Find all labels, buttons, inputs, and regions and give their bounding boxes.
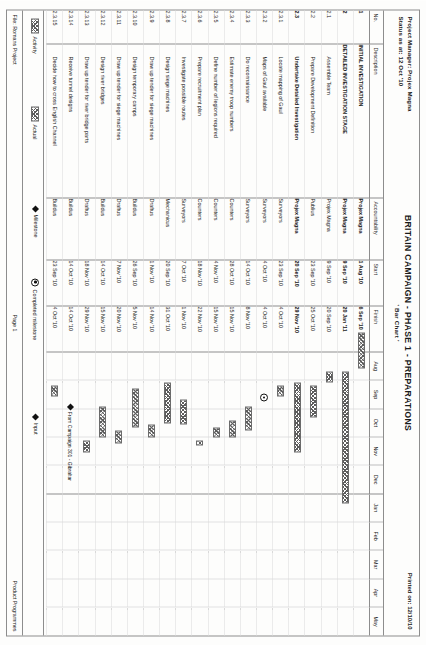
cell-no: 2.3.15 (47, 10, 63, 44)
timeline-cell-aug (353, 352, 369, 380)
timeline-cell-nov (208, 437, 224, 465)
timeline-cell-mar (273, 550, 289, 578)
table-row: 2.1Assemble TeamProjex Magna9 Sep '1020 … (321, 10, 337, 635)
milestone-diamond-icon (32, 413, 39, 420)
cell-start-date: 7 Oct '10 (176, 260, 192, 306)
timeline-cell-dec (240, 465, 256, 493)
cell-accountability: Draftus (79, 198, 95, 260)
timeline-cell-aug (47, 352, 63, 380)
cell-description: Design siege machines (160, 44, 176, 198)
cell-start-date: 1 Nov '10 (144, 260, 160, 306)
cell-description: Decide how to cross English Channel (47, 44, 63, 198)
timeline-cell-aug (111, 352, 127, 380)
cell-finish-date: 14 Nov '10 (144, 306, 160, 352)
timeline-cell-may (63, 607, 79, 635)
timeline-cell-jan (127, 493, 143, 521)
timeline-cell-may (192, 607, 208, 635)
cell-no: 2.3.2 (257, 10, 273, 44)
timeline-cell-dec (337, 465, 353, 493)
cell-finish-date: 4 Oct '10 (257, 306, 273, 352)
gantt-chart-sheet: Project Manager: Projex Magna Status as … (0, 0, 426, 645)
cell-description: DETAILED INVESTIGATION STAGE (337, 44, 353, 198)
cell-finish-date: 14 Oct '10 (63, 306, 79, 352)
timeline-cell-nov (257, 437, 273, 465)
cell-finish-date: 15 Nov '10 (95, 306, 111, 352)
timeline-cell-apr (289, 578, 305, 606)
legend-item: Input (33, 414, 39, 434)
timeline-cell-may (224, 607, 240, 635)
cell-no: 2.3.11 (111, 10, 127, 44)
timeline-cell-dec (176, 465, 192, 493)
timeline-cell-nov (353, 437, 369, 465)
cell-accountability: Projex Magna (337, 198, 353, 260)
cell-description: Do reconnaissance (240, 44, 256, 198)
timeline-cell-apr (111, 578, 127, 606)
cell-accountability: Buildus (127, 198, 143, 260)
timeline-cell-dec (192, 465, 208, 493)
timeline-cell-jan (79, 493, 95, 521)
cell-description: Draw up tender for river bridge parts (79, 44, 95, 198)
cell-start-date: 4 Nov '10 (208, 260, 224, 306)
timeline-month-header-nov: Nov (370, 437, 384, 465)
timeline-cell-jan (208, 493, 224, 521)
timeline-cell-sep (305, 380, 321, 408)
cell-finish-date: 15 Nov '10 (208, 306, 224, 352)
legend-label: Input (33, 422, 39, 434)
timeline-cell-feb (337, 522, 353, 550)
col-header-start: Start (370, 260, 384, 306)
timeline-cell-nov (305, 437, 321, 465)
timeline-cell-nov (127, 437, 143, 465)
cell-accountability: Buildus (63, 198, 79, 260)
cell-start-date: 9 Sep '10 (337, 260, 353, 306)
timeline-cell-dec (208, 465, 224, 493)
timeline-cell-aug (176, 352, 192, 380)
timeline-cell-sep (224, 380, 240, 408)
document-header: Project Manager: Projex Magna Status as … (383, 10, 419, 635)
cell-start-date: 18 Nov '10 (192, 260, 208, 306)
timeline-cell-mar (47, 550, 63, 578)
timeline-cell-mar (63, 550, 79, 578)
table-row: 2.3.13Draw up tender for river bridge pa… (79, 10, 95, 635)
timeline-cell-may (127, 607, 143, 635)
timeline-cell-dec (321, 465, 337, 493)
timeline-cell-jan (160, 493, 176, 521)
timeline-cell-apr (79, 578, 95, 606)
timeline-cell-apr (127, 578, 143, 606)
cell-accountability: Counters (192, 198, 208, 260)
timeline-cell-apr (321, 578, 337, 606)
table-row: 2.3.6Prepare recruitment planCounters18 … (192, 10, 208, 635)
timeline-cell-feb (305, 522, 321, 550)
timeline-cell-mar (95, 550, 111, 578)
timeline-cell-jan (111, 493, 127, 521)
cell-description: Receive tunnel designs (63, 44, 79, 198)
timeline-cell-feb (144, 522, 160, 550)
cell-no: 2.3.9 (144, 10, 160, 44)
timeline-cell-aug (63, 352, 79, 380)
timeline-cell-may (321, 607, 337, 635)
cell-finish-date: 6 Sep '10 (353, 306, 369, 352)
timeline-cell-mar (224, 550, 240, 578)
cell-finish-date: 31 Oct '10 (160, 306, 176, 352)
timeline-cell-sep (79, 380, 95, 408)
timeline-cell-may (305, 607, 321, 635)
cell-no: 2.3.8 (160, 10, 176, 44)
timeline-cell-may (208, 607, 224, 635)
cell-no: 2.3.5 (208, 10, 224, 44)
timeline-cell-dec (95, 465, 111, 493)
timeline-cell-may (337, 607, 353, 635)
legend-item: Actual (31, 106, 39, 139)
cell-start-date: 23 Sep '10 (305, 260, 321, 306)
timeline-cell-jan (95, 493, 111, 521)
timeline-cell-apr (47, 578, 63, 606)
table-row: 2.2Prepare Development DefinitionPublius… (305, 10, 321, 635)
table-row: 2.3.8Design siege machinesMechanicus20 S… (160, 10, 176, 635)
table-row: 2.3.14Receive tunnel designsBuildus14 Oc… (63, 10, 79, 635)
timeline-cell-apr (240, 578, 256, 606)
cell-finish-date: 5 Nov '10 (127, 306, 143, 352)
timeline-cell-oct (79, 408, 95, 436)
timeline-cell-jan (240, 493, 256, 521)
timeline-cell-apr (208, 578, 224, 606)
timeline-cell-oct (224, 408, 240, 436)
timeline-cell-mar (79, 550, 95, 578)
cell-no: 2.3.7 (176, 10, 192, 44)
